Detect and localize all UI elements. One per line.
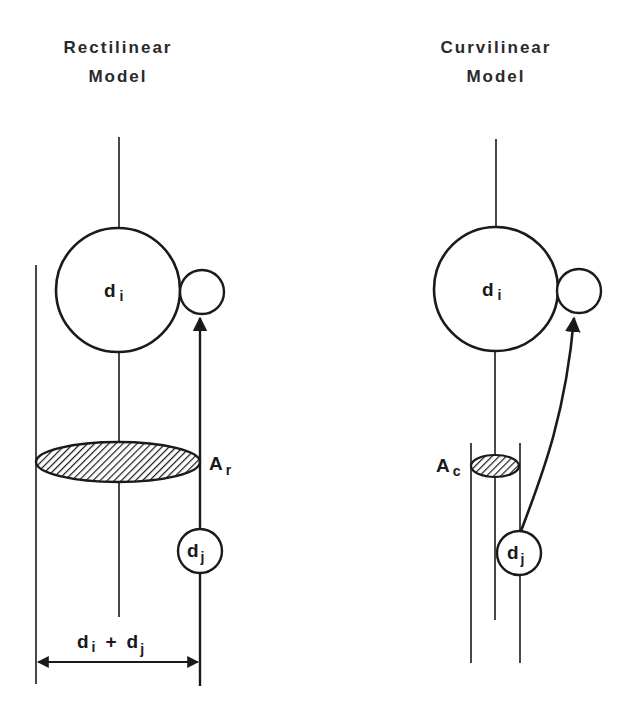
dimension-label: di+dj	[77, 631, 144, 657]
collision-cross-section-ellipse	[36, 442, 200, 482]
rectilinear-title-line1: Rectilinear	[64, 38, 173, 57]
curvilinear-trajectory-arrow	[521, 318, 574, 531]
area-label-rectilinear: Ar	[209, 453, 232, 478]
collector-drop-circle	[56, 228, 180, 352]
collided-drop-circle-right	[557, 269, 601, 313]
curvilinear-title-line1: Curvilinear	[441, 38, 552, 57]
collector-drop-circle-right	[434, 227, 558, 351]
small-drop-circle-right	[497, 531, 541, 575]
collided-drop-circle	[180, 270, 224, 314]
rectilinear-panel: Rectilinear Model di Ar dj di+dj	[36, 38, 232, 686]
collision-model-diagram: Rectilinear Model di Ar dj di+dj Curvili…	[0, 0, 633, 703]
curvilinear-panel: Curvilinear Model di Ac dj	[434, 38, 601, 663]
rectilinear-title-line2: Model	[88, 67, 147, 86]
curvilinear-title-line2: Model	[466, 67, 525, 86]
collision-cross-section-ellipse-small	[471, 455, 519, 477]
area-label-curvilinear: Ac	[436, 455, 461, 479]
